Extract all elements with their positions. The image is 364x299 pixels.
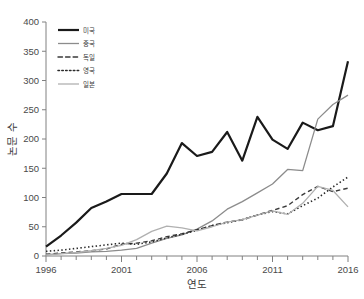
legend-label-3: 영국 [83, 66, 95, 75]
legend-label-2: 독일 [83, 53, 95, 62]
y-tick-label: 50 [28, 221, 39, 232]
y-tick-label: 250 [23, 104, 39, 115]
y-tick-label: 350 [23, 46, 39, 57]
plot-area: 050100150200250300350400 199620012006201… [0, 0, 364, 299]
y-tick-label: 150 [23, 163, 39, 174]
y-axis: 050100150200250300350400 [23, 16, 46, 261]
y-tick-label: 200 [23, 133, 39, 144]
y-tick-label: 100 [23, 192, 39, 203]
x-tick-label: 2016 [337, 264, 358, 275]
legend-label-1: 중국 [83, 40, 95, 48]
line-chart: 050100150200250300350400 199620012006201… [0, 0, 364, 299]
series-line-3 [46, 177, 348, 251]
y-tick-label: 300 [23, 75, 39, 86]
x-axis-title: 연도 [187, 278, 207, 290]
x-axis: 19962001200620112016 [35, 256, 358, 275]
x-tick-label: 2011 [262, 264, 282, 275]
x-tick-label: 2001 [111, 264, 132, 275]
x-tick-label: 2006 [186, 264, 207, 275]
series-line-0 [46, 61, 348, 246]
legend-label-0: 미국 [83, 26, 95, 35]
series-line-4 [46, 186, 348, 254]
series-line-2 [46, 186, 348, 254]
y-axis-title: 논문 수 [6, 122, 18, 155]
chart-legend: 미국중국독일영국일본 [58, 26, 95, 89]
legend-label-4: 일본 [83, 80, 95, 89]
y-tick-label: 400 [23, 16, 39, 27]
x-tick-label: 1996 [35, 264, 56, 275]
y-tick-label: 0 [34, 250, 39, 261]
series-lines [46, 61, 348, 255]
